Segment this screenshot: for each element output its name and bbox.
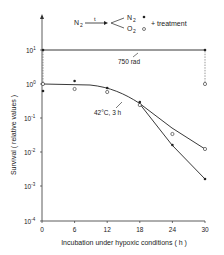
x-tick-label: 18 [136,226,144,233]
x-tick-label: 0 [40,226,44,233]
survival-chart: N 2 t N 2 O 2 + treatment 101 100 10-1 1… [0,0,224,255]
legend-branch-top-sub: 2 [133,17,136,23]
annotation-42c: 42°C, 3 h [94,109,122,116]
legend-suffix: + treatment [151,20,187,27]
legend: N 2 t N 2 O 2 + treatment [74,14,187,34]
legend-branch-bottom-sub: 2 [133,28,136,34]
y-tick-label: 10-1 [24,114,36,122]
x-tick-label: 30 [201,226,209,233]
legend-arrow-label: t [94,16,96,22]
annotation-750rad: 750 rad [118,58,140,65]
arrow-head-icon [104,21,108,25]
y-tick-label: 10-2 [24,148,36,156]
annotation-pointer [133,53,138,57]
legend-start: N [74,19,79,26]
open-circle-marker-icon [143,28,146,31]
x-axis-label: Incubation under hypoxic conditions ( h … [61,239,187,247]
axis-arrow-icon [40,14,44,19]
x-tick-label: 12 [104,226,112,233]
x-tick-labels: 0 6 12 18 24 30 [40,226,209,233]
series-n2-curve [139,103,205,179]
series-o2-curve [43,84,205,149]
branch-line-bottom [111,23,124,28]
y-tick-label: 101 [26,46,36,54]
x-tick-label: 24 [169,226,177,233]
branch-line-top [111,18,124,23]
y-axis-label: Survival ( relative values ) [10,95,18,175]
legend-start-sub: 2 [80,22,83,28]
chart-svg: N 2 t N 2 O 2 + treatment 101 100 10-1 1… [0,0,224,255]
annotation-pointer [116,102,122,108]
y-tick-label: 10-3 [24,182,36,190]
legend-branch-top: N [127,14,132,21]
x-tick-label: 6 [73,226,77,233]
y-tick-label: 100 [26,80,36,88]
y-tick-label: 10-4 [24,217,36,225]
series-o2-markers [41,82,206,150]
x-axis [42,221,205,223]
series-750rad [42,49,207,86]
y-tick-labels: 101 100 10-1 10-2 10-3 10-4 [24,46,36,225]
filled-circle-marker-icon [143,16,146,19]
y-axis [40,14,44,221]
